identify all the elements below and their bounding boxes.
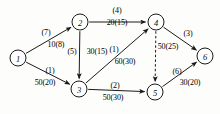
edge-cost-label-3-4: (1)	[109, 46, 118, 54]
edge-cost-label-5-6: (6)	[172, 68, 181, 76]
edge-4-to-5	[155, 31, 156, 81]
node-label-5: 5	[153, 88, 157, 98]
node-5[interactable]: 5	[147, 84, 163, 100]
node-label-3: 3	[76, 85, 81, 95]
edge-flow-label-2-4: 20(15)	[107, 19, 128, 27]
edge-flow-label-5-6: 30(20)	[180, 79, 201, 87]
edge-cost-label-1-3: (1)	[45, 67, 54, 75]
node-2[interactable]: 2	[72, 14, 88, 30]
edge-flow-label-1-2: 10(8)	[48, 41, 65, 49]
edge-cost-label-2-3: (5)	[67, 48, 76, 56]
node-4[interactable]: 4	[148, 14, 164, 30]
edge-cost-label-4-6: (3)	[183, 30, 192, 38]
edge-cost-label-2-4: (4)	[112, 7, 121, 15]
edge-cost-label-3-5: (2)	[110, 82, 119, 90]
node-label-1: 1	[16, 54, 20, 64]
node-1[interactable]: 1	[10, 50, 26, 66]
edge-flow-label-3-5: 50(30)	[103, 94, 124, 102]
edge-flow-label-4-5: 50(25)	[158, 43, 179, 51]
edge-cost-label-1-2: (7)	[41, 29, 50, 37]
node-3[interactable]: 3	[71, 81, 87, 97]
edge-flow-label-2-3: 30(15)	[87, 48, 108, 56]
edge-flow-label-3-4: 60(30)	[115, 58, 136, 66]
node-6[interactable]: 6	[197, 48, 213, 64]
network-diagram: 123456 (7)10(8)(1)50(20)(5)30(15)(4)20(1…	[0, 0, 220, 114]
edge-flow-label-1-3: 50(20)	[35, 79, 56, 87]
edge-2-to-3	[79, 31, 80, 78]
